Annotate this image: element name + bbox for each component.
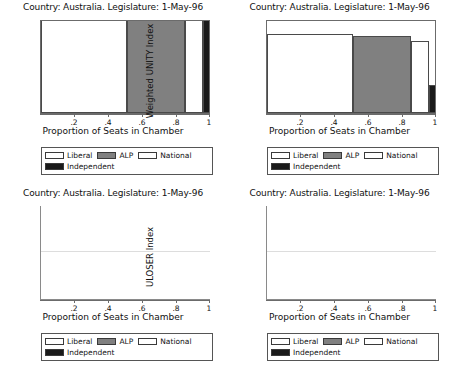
x-axis-label: Proportion of Seats in Chamber	[226, 312, 453, 322]
legend-label: Liberal	[293, 338, 318, 346]
legend-label: Independent	[67, 349, 115, 357]
y-axis-label: Weighted UNITY Index	[145, 18, 157, 124]
legend-label: National	[160, 338, 191, 346]
legend-item-alp: ALP	[97, 152, 133, 160]
chart-title: Country: Australia. Legislature: 1-May-9…	[226, 2, 453, 12]
legend-row: Independent	[271, 347, 435, 358]
legend-item-alp: ALP	[323, 152, 359, 160]
legend-swatch-icon	[138, 338, 157, 345]
legend-swatch-icon	[364, 338, 383, 345]
legend-row: LiberalALPNational	[45, 150, 209, 161]
x-tick-mark	[74, 114, 75, 117]
legend-swatch-icon	[271, 163, 290, 170]
legend-label: National	[160, 152, 191, 160]
y-tick-mark	[266, 112, 267, 113]
legend-swatch-icon	[323, 338, 342, 345]
plot-area-rloser: 0.05.1	[40, 206, 210, 300]
x-tick-mark	[402, 114, 403, 117]
legend-item-independent: Independent	[45, 163, 115, 171]
legend-swatch-icon	[45, 338, 64, 345]
legend-label: Independent	[293, 163, 341, 171]
x-axis-rcie: .2.4.6.81	[40, 114, 210, 115]
legend-uloser: LiberalALPNationalIndependent	[267, 333, 439, 361]
legend-label: Independent	[293, 349, 341, 357]
x-tick-mark	[334, 114, 335, 117]
legend-item-national: National	[138, 152, 191, 160]
legend-item-liberal: Liberal	[271, 152, 318, 160]
legend-swatch-icon	[323, 152, 342, 159]
legend-item-national: National	[364, 338, 417, 346]
y-tick-mark	[266, 251, 267, 252]
legend-swatch-icon	[364, 152, 383, 159]
y-tick-mark	[266, 65, 267, 66]
x-axis-uloser: .2.4.6.81	[266, 300, 436, 301]
chart-title: Country: Australia. Legislature: 1-May-9…	[0, 2, 226, 12]
x-tick-mark	[368, 300, 369, 303]
bar-national	[411, 41, 430, 113]
legend-row: LiberalALPNational	[271, 150, 435, 161]
bar-independent	[429, 85, 436, 113]
x-tick-mark	[74, 300, 75, 303]
legend-row: LiberalALPNational	[45, 336, 209, 347]
x-tick-mark	[334, 300, 335, 303]
x-tick-mark	[402, 300, 403, 303]
legend-label: Independent	[67, 163, 115, 171]
legend-rloser: LiberalALPNationalIndependent	[41, 333, 213, 361]
x-axis-label: Proportion of Seats in Chamber	[0, 126, 226, 136]
y-tick-mark	[40, 42, 41, 43]
legend-label: National	[386, 338, 417, 346]
legend-label: Liberal	[67, 338, 92, 346]
x-tick-mark	[176, 114, 177, 117]
x-tick-mark	[108, 114, 109, 117]
plot-area-rcie: 0.25.5.751	[40, 20, 210, 114]
y-tick-mark	[40, 298, 41, 299]
legend-swatch-icon	[45, 163, 64, 170]
legend-item-independent: Independent	[271, 349, 341, 357]
x-tick-mark	[435, 300, 436, 303]
figure-grid: Country: Australia. Legislature: 1-May-9…	[0, 0, 453, 373]
y-tick-mark	[40, 89, 41, 90]
bar-liberal	[41, 20, 127, 113]
legend-row: Independent	[45, 161, 209, 172]
bar-independent	[203, 20, 210, 113]
bar-liberal	[267, 34, 353, 113]
y-axis-label: ULOSER Index	[145, 204, 157, 310]
legend-swatch-icon	[97, 338, 116, 345]
x-tick-mark	[176, 300, 177, 303]
x-tick-mark	[142, 300, 143, 303]
x-axis-label: Proportion of Seats in Chamber	[226, 126, 453, 136]
x-axis-label: Proportion of Seats in Chamber	[0, 312, 226, 322]
chart-title: Country: Australia. Legislature: 1-May-9…	[0, 188, 226, 198]
panel-unity: Country: Australia. Legislature: 1-May-9…	[226, 0, 453, 186]
legend-label: ALP	[345, 338, 359, 346]
legend-row: Independent	[271, 161, 435, 172]
x-tick-mark	[209, 114, 210, 117]
legend-item-independent: Independent	[45, 349, 115, 357]
x-tick-mark	[142, 114, 143, 117]
legend-swatch-icon	[271, 338, 290, 345]
y-tick-mark	[40, 112, 41, 113]
legend-swatch-icon	[138, 152, 157, 159]
legend-label: Liberal	[293, 152, 318, 160]
x-axis-unity: .2.4.6.81	[266, 114, 436, 115]
legend-swatch-icon	[45, 349, 64, 356]
legend-item-alp: ALP	[97, 338, 133, 346]
legend-label: National	[386, 152, 417, 160]
legend-item-liberal: Liberal	[45, 338, 92, 346]
legend-item-alp: ALP	[323, 338, 359, 346]
legend-item-liberal: Liberal	[271, 338, 318, 346]
legend-item-liberal: Liberal	[45, 152, 92, 160]
y-tick-mark	[40, 65, 41, 66]
plot-area-unity: 0.25.5.751	[266, 20, 436, 114]
legend-item-national: National	[364, 152, 417, 160]
legend-row: LiberalALPNational	[271, 336, 435, 347]
legend-label: ALP	[119, 338, 133, 346]
legend-label: ALP	[119, 152, 133, 160]
legend-swatch-icon	[97, 152, 116, 159]
panel-rcie: Country: Australia. Legislature: 1-May-9…	[0, 0, 226, 186]
y-tick-mark	[266, 89, 267, 90]
bar-alp	[353, 36, 411, 113]
plot-area-uloser: 0.05.1	[266, 206, 436, 300]
panel-rloser: Country: Australia. Legislature: 1-May-9…	[0, 186, 226, 373]
legend-label: ALP	[345, 152, 359, 160]
